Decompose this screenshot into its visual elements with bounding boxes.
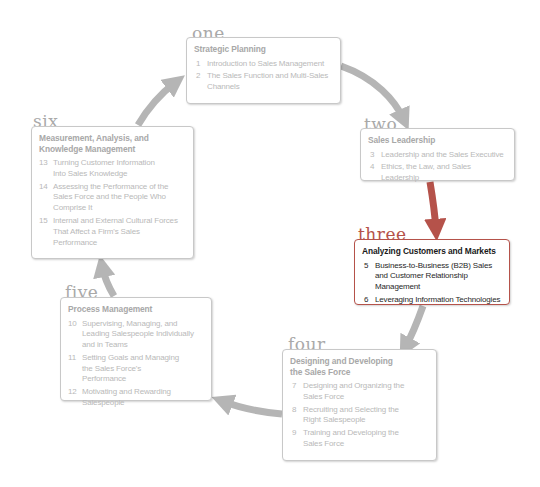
chapter-number: 15	[39, 216, 53, 248]
arrow-one-to-two-icon	[341, 66, 404, 120]
stage-box-two: Sales Leadership 3 Leadership and the Sa…	[360, 128, 515, 181]
chapter-number: 2	[194, 71, 207, 93]
chapter-number: 1	[194, 59, 207, 70]
stage-title: Measurement, Analysis, and Knowledge Man…	[39, 133, 159, 154]
chapter-number: 4	[368, 162, 381, 184]
chapter-title: Turning Customer Information Into Sales …	[53, 158, 159, 180]
chapter-title: Leadership and the Sales Executive	[381, 150, 507, 161]
chapter-number: 6	[362, 295, 375, 306]
chapter-number: 11	[68, 353, 82, 385]
chapter-number: 12	[68, 387, 82, 409]
arrow-four-to-five-icon	[222, 401, 282, 414]
chapter-item: 13 Turning Customer Information Into Sal…	[39, 158, 159, 180]
chapter-number: 10	[68, 319, 82, 351]
chapter-title: Supervising, Managing, and Leading Sales…	[82, 319, 204, 351]
chapter-item: 14 Assessing the Performance of the Sale…	[39, 182, 169, 214]
stage-box-six: Measurement, Analysis, and Knowledge Man…	[31, 126, 194, 259]
stage-title: Process Management	[68, 304, 204, 315]
stage-title: Analyzing Customers and Markets	[362, 246, 502, 257]
chapter-title: Setting Goals and Managing the Sales For…	[82, 353, 186, 385]
arrow-six-to-one-icon	[138, 82, 176, 125]
chapter-item: 11 Setting Goals and Managing the Sales …	[68, 353, 186, 385]
chapter-item: 4 Ethics, the Law, and Sales Leadership	[368, 162, 507, 184]
chapter-title: Business-to-Business (B2B) Sales and Cus…	[375, 261, 502, 293]
chapter-item: 3 Leadership and the Sales Executive	[368, 150, 507, 161]
chapter-title: Assessing the Performance of the Sales F…	[53, 182, 169, 214]
stage-box-four: Designing and Developing the Sales Force…	[282, 349, 437, 461]
chapter-number: 7	[290, 381, 303, 403]
chapter-item: 2 The Sales Function and Multi-Sales Cha…	[194, 71, 333, 93]
stage-title: Designing and Developing the Sales Force	[290, 356, 395, 377]
chapter-title: Internal and External Cultural Forces Th…	[53, 216, 186, 248]
chapter-title: Training and Developing the Sales Force	[303, 428, 408, 450]
stage-title: Sales Leadership	[368, 135, 507, 146]
chapter-number: 9	[290, 428, 303, 450]
stage-title: Strategic Planning	[194, 44, 333, 55]
chapter-item: 5 Business-to-Business (B2B) Sales and C…	[362, 261, 502, 293]
chapter-item: 12 Motivating and Rewarding Salespeople	[68, 387, 172, 409]
arrow-three-to-four-icon	[405, 306, 423, 348]
chapter-number: 14	[39, 182, 53, 214]
chapter-title: Designing and Organizing the Sales Force	[303, 381, 408, 403]
chapter-item: 9 Training and Developing the Sales Forc…	[290, 428, 408, 450]
chapter-item: 8 Recruiting and Selecting the Right Sal…	[290, 405, 418, 427]
chapter-title: The Sales Function and Multi-Sales Chann…	[207, 71, 333, 93]
chapter-title: Introduction to Sales Management	[207, 59, 333, 70]
chapter-item: 6 Leveraging Information Technologies	[362, 295, 502, 306]
chapter-number: 3	[368, 150, 381, 161]
arrow-two-to-three-icon	[430, 182, 436, 230]
chapter-title: Motivating and Rewarding Salespeople	[82, 387, 172, 409]
chapter-number: 5	[362, 261, 375, 293]
chapter-item: 10 Supervising, Managing, and Leading Sa…	[68, 319, 204, 351]
chapter-number: 8	[290, 405, 303, 427]
stage-box-one: Strategic Planning 1 Introduction to Sal…	[186, 37, 341, 104]
stage-box-five: Process Management 10 Supervising, Manag…	[60, 297, 212, 401]
chapter-item: 1 Introduction to Sales Management	[194, 59, 333, 70]
stage-box-three: Analyzing Customers and Markets 5 Busine…	[354, 239, 510, 305]
chapter-item: 15 Internal and External Cultural Forces…	[39, 216, 186, 248]
chapter-title: Recruiting and Selecting the Right Sales…	[303, 405, 418, 427]
chapter-title: Leveraging Information Technologies	[375, 295, 502, 306]
chapter-item: 7 Designing and Organizing the Sales For…	[290, 381, 408, 403]
chapter-title: Ethics, the Law, and Sales Leadership	[381, 162, 507, 184]
chapter-number: 13	[39, 158, 53, 180]
arrow-five-to-six-icon	[102, 266, 114, 296]
